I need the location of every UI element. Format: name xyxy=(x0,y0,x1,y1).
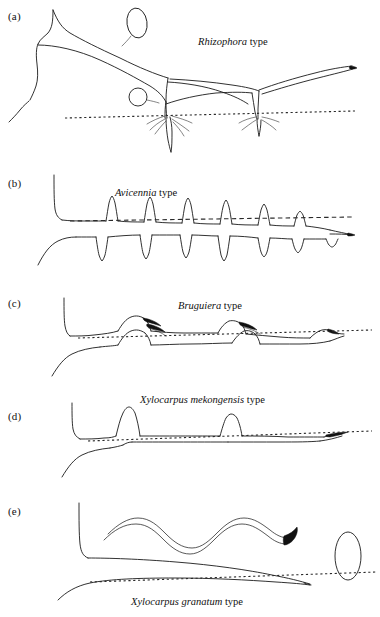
panel-e-xylocarpus-granatum: (e) Xylocarpus granatum type xyxy=(0,490,380,617)
panel-e-drawing xyxy=(0,490,380,617)
soil-surface-line-c xyxy=(78,330,372,338)
panel-c-drawing xyxy=(0,288,380,388)
soil-surface-line-e xyxy=(90,572,376,582)
panel-c-bruguiera: (c) Bruguiera type xyxy=(0,288,380,388)
cross-section-ellipse-a-upper xyxy=(125,7,149,39)
panel-d-xylocarpus-mekongensis: (d) Xylocarpus mekongensis type xyxy=(0,385,380,490)
panel-b-drawing xyxy=(0,165,380,290)
mangrove-root-types-figure: (a) Rhizophora type xyxy=(0,0,380,617)
cross-section-circle-a xyxy=(129,88,147,106)
cross-section-ellipse-e xyxy=(335,532,361,580)
soil-surface-line-b xyxy=(70,217,352,221)
soil-surface-line-a xyxy=(65,111,355,118)
panel-b-avicennia: (b) Avicennia type xyxy=(0,165,380,290)
panel-a-drawing xyxy=(0,0,380,165)
panel-d-drawing xyxy=(0,385,380,490)
panel-a-rhizophora: (a) Rhizophora type xyxy=(0,0,380,165)
